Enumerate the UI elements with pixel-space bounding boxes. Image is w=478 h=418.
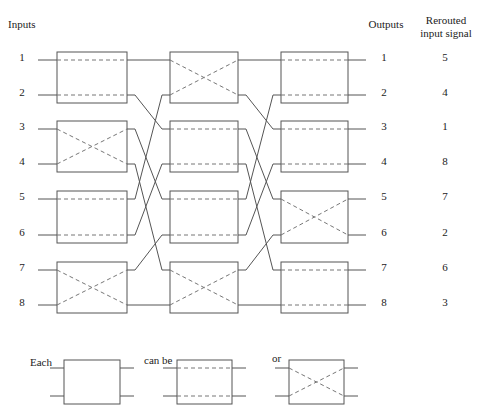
output-label-8: 8 bbox=[377, 296, 391, 309]
rerouted-label-6: 2 bbox=[438, 226, 452, 239]
input-label-6: 6 bbox=[15, 226, 29, 239]
output-label-7: 7 bbox=[377, 261, 391, 274]
input-label-2: 2 bbox=[15, 86, 29, 99]
stage-1-switch-4 bbox=[57, 262, 127, 313]
outputs-header: Outputs bbox=[366, 18, 406, 31]
output-label-6: 6 bbox=[377, 226, 391, 239]
input-label-4: 4 bbox=[15, 155, 29, 168]
rerouted-label-7: 6 bbox=[438, 261, 452, 274]
legend-generic-switch bbox=[64, 360, 120, 404]
rerouted-label-8: 3 bbox=[438, 296, 452, 309]
rerouted-header-line1: Rerouted bbox=[420, 14, 472, 27]
output-label-3: 3 bbox=[377, 120, 391, 133]
legend-or-label: or bbox=[272, 352, 281, 365]
interconnect-1-wire-4 bbox=[127, 164, 170, 270]
legend-each-label: Each bbox=[30, 356, 52, 369]
output-label-4: 4 bbox=[377, 155, 391, 168]
rerouted-label-4: 8 bbox=[438, 155, 452, 168]
rerouted-label-1: 5 bbox=[438, 51, 452, 64]
interconnect-1-wire-7 bbox=[127, 235, 170, 270]
input-label-5: 5 bbox=[15, 190, 29, 203]
interconnect-2-wire-5 bbox=[238, 95, 281, 199]
output-label-1: 1 bbox=[377, 51, 391, 64]
rerouted-header-line2: input signal bbox=[414, 27, 478, 40]
rerouted-label-5: 7 bbox=[438, 190, 452, 203]
stage-1-switch-2 bbox=[57, 121, 127, 172]
legend-can-be-label: can be bbox=[144, 354, 172, 367]
input-label-3: 3 bbox=[15, 120, 29, 133]
output-label-5: 5 bbox=[377, 190, 391, 203]
input-label-1: 1 bbox=[15, 51, 29, 64]
interconnect-2-wire-7 bbox=[238, 235, 281, 270]
rerouted-label-3: 1 bbox=[438, 120, 452, 133]
input-label-8: 8 bbox=[15, 296, 29, 309]
interconnect-2-wire-4 bbox=[238, 164, 281, 270]
interconnect-1-wire-5 bbox=[127, 95, 170, 199]
rerouted-label-2: 4 bbox=[438, 86, 452, 99]
switching-network-diagram bbox=[0, 0, 478, 418]
interconnect-1-wire-2 bbox=[127, 95, 170, 129]
interconnect-2-wire-2 bbox=[238, 95, 281, 129]
output-label-2: 2 bbox=[377, 86, 391, 99]
inputs-header: Inputs bbox=[8, 18, 36, 31]
input-label-7: 7 bbox=[15, 261, 29, 274]
legend-straight-switch bbox=[177, 360, 232, 404]
